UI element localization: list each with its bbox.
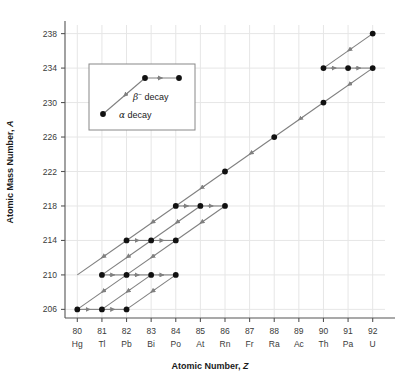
chart-canvas: 80Hg81Tl82Pb83Bi84Po85At86Rn87Fr88Ra89Ac… (0, 0, 402, 384)
y-tick-label-210: 210 (43, 270, 57, 280)
x-tick-symbol-Pa: Pa (343, 339, 354, 349)
x-tick-label-81: 81 (97, 326, 107, 336)
nuclide-point-z82-a206 (124, 306, 130, 312)
nuclide-point-z86-a218 (222, 203, 228, 209)
x-tick-symbol-Po: Po (171, 339, 182, 349)
y-tick-label-218: 218 (43, 201, 57, 211)
nuclide-point-z88-a226 (271, 134, 277, 140)
nuclide-point-z81-a206 (99, 306, 105, 312)
nuclide-point-z80-a206 (74, 306, 80, 312)
x-tick-symbol-Th: Th (319, 339, 329, 349)
nuclide-point-z91-a234 (345, 65, 351, 71)
legend-box: β− decayα decay (89, 64, 195, 130)
nuclide-point-z90-a234 (321, 65, 327, 71)
legend-point-parent (142, 75, 148, 81)
nuclide-point-z83-a210 (148, 272, 154, 278)
x-tick-label-89: 89 (294, 326, 304, 336)
x-tick-symbol-Bi: Bi (147, 339, 155, 349)
decay-series-chart: 80Hg81Tl82Pb83Bi84Po85At86Rn87Fr88Ra89Ac… (0, 0, 402, 384)
nuclide-point-z92-a234 (370, 65, 376, 71)
x-tick-symbol-At: At (196, 339, 205, 349)
y-tick-label-234: 234 (43, 63, 57, 73)
x-tick-symbol-Ac: Ac (294, 339, 305, 349)
x-tick-label-88: 88 (269, 326, 279, 336)
x-tick-label-86: 86 (220, 326, 230, 336)
x-tick-label-80: 80 (73, 326, 83, 336)
nuclide-point-z83-a214 (148, 238, 154, 244)
x-tick-label-87: 87 (245, 326, 255, 336)
x-tick-symbol-Hg: Hg (72, 339, 83, 349)
y-tick-label-206: 206 (43, 304, 57, 314)
y-tick-label-230: 230 (43, 98, 57, 108)
legend-point-alpha-daughter (100, 111, 106, 117)
y-tick-label-214: 214 (43, 235, 57, 245)
legend-label-beta: β− decay (132, 91, 169, 103)
y-axis-tick-labels: 206210214218222226230234238 (43, 29, 57, 315)
nuclide-point-z86-a222 (222, 169, 228, 175)
x-tick-symbol-U: U (370, 339, 376, 349)
legend-point-beta-daughter (176, 75, 182, 81)
nuclide-point-z90-a230 (321, 100, 327, 106)
x-tick-symbol-Fr: Fr (246, 339, 254, 349)
x-tick-label-85: 85 (196, 326, 206, 336)
x-axis-title: Atomic Number, Z (171, 361, 249, 371)
x-tick-symbol-Rn: Rn (220, 339, 231, 349)
nuclide-point-z84-a218 (173, 203, 179, 209)
x-tick-symbol-Pb: Pb (121, 339, 132, 349)
x-tick-label-84: 84 (171, 326, 181, 336)
nuclide-point-z84-a214 (173, 238, 179, 244)
x-tick-label-92: 92 (368, 326, 378, 336)
y-tick-label-238: 238 (43, 29, 57, 39)
nuclide-point-z85-a218 (197, 203, 203, 209)
x-tick-symbol-Tl: Tl (98, 339, 105, 349)
nuclide-point-z82-a214 (124, 238, 130, 244)
nuclide-point-z82-a210 (124, 272, 130, 278)
x-tick-label-91: 91 (343, 326, 353, 336)
nuclide-point-z84-a210 (173, 272, 179, 278)
legend-label-alpha: α decay (119, 110, 152, 120)
y-axis-title: Atomic Mass Number, A (5, 120, 15, 223)
nuclide-point-z92-a238 (370, 31, 376, 37)
x-tick-symbol-Ra: Ra (269, 339, 280, 349)
y-tick-label-222: 222 (43, 167, 57, 177)
x-tick-label-90: 90 (319, 326, 329, 336)
x-tick-label-82: 82 (122, 326, 132, 336)
y-tick-label-226: 226 (43, 132, 57, 142)
nuclide-point-z81-a210 (99, 272, 105, 278)
x-tick-label-83: 83 (146, 326, 156, 336)
